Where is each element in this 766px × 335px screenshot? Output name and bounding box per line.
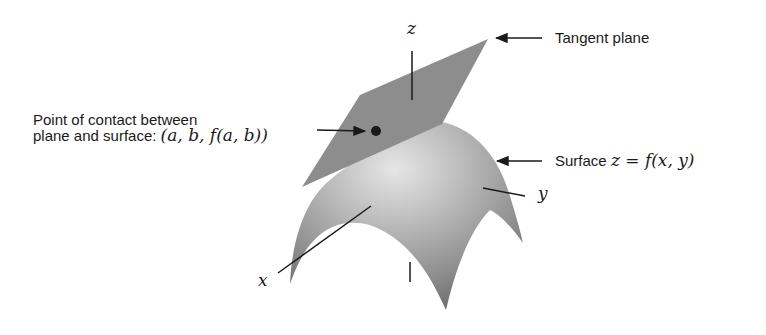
x-axis-label: x — [258, 272, 268, 288]
surface-label-prefix: Surface — [555, 152, 607, 169]
surface-label: Surface z = f(x, y) — [555, 152, 694, 169]
tangent-plane-diagram: z y x Tangent plane Surface z = f(x, y) … — [0, 0, 766, 335]
contact-point-coordinates: (a, b, f(a, b)) — [161, 125, 268, 145]
contact-label-line2: plane and surface: (a, b, f(a, b)) — [33, 127, 268, 144]
contact-point-dot — [371, 126, 381, 136]
y-axis-label: y — [538, 185, 548, 201]
z-axis-label: z — [407, 20, 416, 36]
surface-equation: z = f(x, y) — [611, 150, 695, 170]
tangent-plane-label: Tangent plane — [555, 30, 649, 46]
contact-label-prefix: plane and surface: — [33, 127, 156, 144]
surface — [290, 122, 523, 310]
